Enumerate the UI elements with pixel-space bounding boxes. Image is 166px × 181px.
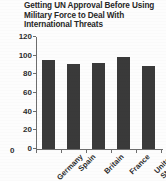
plot-area: 0 xyxy=(36,37,162,149)
y-tick-mark-100 xyxy=(33,55,37,56)
y-tick-label-120: 120 xyxy=(8,32,32,41)
y-tick-label-0: 0 xyxy=(8,144,32,153)
x-label-united-states[interactable]: United States xyxy=(153,153,166,181)
bar-britain[interactable] xyxy=(92,63,105,149)
chart-title-line-2: Military Force to Deal With xyxy=(24,11,166,21)
x-tick-mark-0 xyxy=(36,149,37,153)
chart-title-line-1: Getting UN Approval Before Using xyxy=(24,1,166,11)
x-tick-mark-5 xyxy=(161,149,162,153)
bar-united-states[interactable] xyxy=(142,66,155,149)
y-tick-mark-60 xyxy=(33,92,37,93)
y-tick-label-40: 40 xyxy=(8,107,32,116)
x-label-britain-line-1: Britain xyxy=(102,152,125,175)
bar-france[interactable] xyxy=(117,57,130,149)
x-label-france-line-1: France xyxy=(128,152,152,176)
x-tick-mark-4 xyxy=(136,149,137,153)
x-tick-mark-2 xyxy=(86,149,87,153)
x-label-britain[interactable]: Britain xyxy=(103,153,126,176)
x-tick-mark-1 xyxy=(61,149,62,153)
chart-title: Getting UN Approval Before Using Militar… xyxy=(24,1,166,30)
y-tick-label-100: 100 xyxy=(8,51,32,60)
y-tick-mark-20 xyxy=(33,129,37,130)
y-tick-label-80: 80 xyxy=(8,69,32,78)
y-tick-label-60: 60 xyxy=(8,88,32,97)
y-tick-mark-80 xyxy=(33,73,37,74)
x-tick-mark-3 xyxy=(111,149,112,153)
chart-title-line-3: International Threats xyxy=(24,20,166,30)
y-tick-label-20: 20 xyxy=(8,125,32,134)
bar-germany[interactable] xyxy=(42,60,55,149)
x-label-france[interactable]: France xyxy=(128,153,152,177)
bar-spain[interactable] xyxy=(67,64,80,149)
bar-chart-figure: Getting UN Approval Before Using Militar… xyxy=(0,0,166,181)
y-tick-mark-120 xyxy=(33,36,37,37)
y-tick-mark-40 xyxy=(33,111,37,112)
